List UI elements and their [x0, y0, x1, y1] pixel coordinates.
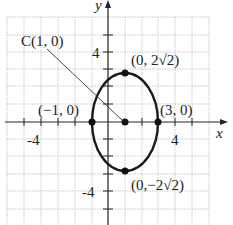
covertex-right-point [155, 119, 162, 126]
y-tick-label-4: 4 [92, 45, 100, 61]
center-point [122, 119, 129, 126]
covertex-left-point [89, 119, 96, 126]
y-axis-arrow-icon [105, 0, 111, 8]
vertex-bottom-label: (0,−2√2) [131, 177, 184, 194]
ellipse-graph: x y -4 4 4 -4 C(1, 0) (0, 2√2) (0,−2√2) … [0, 0, 233, 225]
vertex-top-point [122, 70, 129, 77]
y-axis-label: y [93, 0, 102, 13]
x-axis-label: x [215, 125, 223, 141]
covertex-left-label: (−1, 0) [38, 102, 79, 119]
x-tick-label-4: 4 [171, 132, 179, 148]
x-tick-label-neg4: -4 [27, 132, 40, 148]
vertex-top-label: (0, 2√2) [131, 52, 179, 69]
y-tick-label-neg4: -4 [82, 184, 95, 200]
vertex-bottom-point [122, 168, 129, 175]
center-label: C(1, 0) [21, 33, 64, 50]
covertex-right-label: (3, 0) [160, 102, 193, 119]
